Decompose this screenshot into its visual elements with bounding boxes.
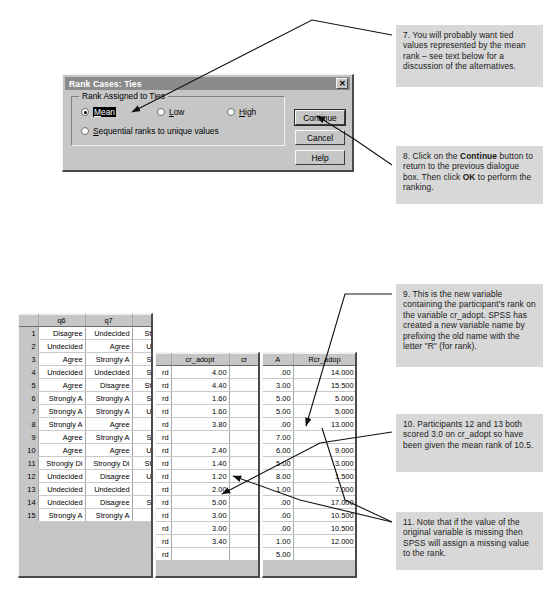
table-cell[interactable] [132, 483, 153, 496]
table-row[interactable]: 3AgreeStrongly AS [19, 353, 153, 366]
table-cell[interactable]: 1.40 [171, 457, 229, 470]
table-cell[interactable]: 13.000 [293, 418, 356, 431]
table-cell[interactable]: 3.00 [171, 522, 229, 535]
table-row[interactable]: 2UndecidedAgreeU [19, 340, 153, 353]
table-cell[interactable] [229, 509, 259, 522]
table-cell[interactable]: 3.40 [171, 535, 229, 548]
column-header-partial[interactable] [132, 315, 153, 327]
table-cell[interactable]: 5.00 [171, 496, 229, 509]
table-cell[interactable]: U [132, 405, 153, 418]
table-cell[interactable]: 1.60 [171, 405, 229, 418]
table-cell[interactable]: 6.00 [263, 444, 293, 457]
column-header-q6[interactable]: q6 [38, 315, 85, 327]
table-cell[interactable]: S [132, 496, 153, 509]
table-row[interactable]: rd3.00 [156, 509, 259, 522]
table-cell[interactable]: Agree [38, 444, 85, 457]
table-cell[interactable]: Strongly A [85, 353, 132, 366]
table-cell[interactable] [229, 418, 259, 431]
table-cell[interactable]: 10.500 [293, 509, 356, 522]
table-cell[interactable]: rd [156, 496, 171, 509]
table-row[interactable]: .0014.000 [263, 366, 356, 379]
table-cell[interactable]: Strongly A [38, 418, 85, 431]
radio-option-low[interactable]: Low [157, 107, 227, 117]
table-row[interactable]: rd1.20 [156, 470, 259, 483]
table-row[interactable]: 5.00 [263, 548, 356, 561]
table-cell[interactable]: Strongly Di [85, 457, 132, 470]
table-cell[interactable]: rd [156, 483, 171, 496]
table-cell[interactable]: rd [156, 548, 171, 561]
table-row[interactable]: .0013.000 [263, 418, 356, 431]
table-row[interactable]: rd3.00 [156, 522, 259, 535]
table-cell[interactable]: rd [156, 379, 171, 392]
table-row[interactable]: 5.005.000 [263, 392, 356, 405]
help-button[interactable]: Help [295, 150, 345, 165]
table-cell[interactable]: 1.20 [171, 470, 229, 483]
table-cell[interactable]: U [132, 470, 153, 483]
table-cell[interactable]: Strongly A [85, 392, 132, 405]
table-row[interactable]: 1DisagreeUndecidedSt [19, 327, 153, 340]
table-cell[interactable]: rd [156, 418, 171, 431]
table-cell[interactable]: Undecided [85, 483, 132, 496]
table-cell[interactable]: Agree [38, 431, 85, 444]
table-cell[interactable]: 3.000 [293, 457, 356, 470]
table-cell[interactable]: 12.000 [293, 535, 356, 548]
table-cell[interactable] [171, 431, 229, 444]
table-cell[interactable] [229, 431, 259, 444]
table-cell[interactable] [229, 483, 259, 496]
table-row[interactable]: rd1.60 [156, 405, 259, 418]
radio-option-high[interactable]: High [227, 107, 256, 117]
table-cell[interactable]: rd [156, 392, 171, 405]
table-cell[interactable]: 1.60 [171, 392, 229, 405]
table-cell[interactable]: Undecided [38, 366, 85, 379]
table-row[interactable]: 8.001.500 [263, 470, 356, 483]
table-cell[interactable]: Agree [38, 379, 85, 392]
table-cell[interactable]: Disagree [85, 379, 132, 392]
table-cell[interactable]: rd [156, 366, 171, 379]
table-cell[interactable]: 8.00 [263, 470, 293, 483]
table-cell[interactable]: 5.00 [263, 457, 293, 470]
table-cell[interactable]: rd [156, 431, 171, 444]
table-row[interactable]: 7Strongly AStrongly AU [19, 405, 153, 418]
table-cell[interactable] [229, 457, 259, 470]
table-cell[interactable]: 2.40 [171, 444, 229, 457]
table-row[interactable]: 8Strongly AAgree [19, 418, 153, 431]
radio-mean-indicator[interactable] [81, 108, 89, 116]
table-cell[interactable]: 4.00 [171, 366, 229, 379]
table-row[interactable]: 5.003.000 [263, 457, 356, 470]
column-header-a[interactable]: A [263, 354, 293, 366]
table-cell[interactable]: Strongly A [38, 392, 85, 405]
continue-button[interactable]: Continue [295, 110, 345, 125]
table-cell[interactable]: 1.500 [293, 470, 356, 483]
table-cell[interactable]: 5.00 [263, 548, 293, 561]
table-row[interactable]: 12UndecidedDisagreeU [19, 470, 153, 483]
table-row[interactable]: 13UndecidedUndecided [19, 483, 153, 496]
table-row[interactable]: 15Strongly AStrongly A [19, 509, 153, 522]
table-row[interactable]: 3.0015.500 [263, 379, 356, 392]
table-row[interactable]: 1.0012.000 [263, 535, 356, 548]
table-row[interactable]: rd4.00 [156, 366, 259, 379]
table-cell[interactable]: St [132, 327, 153, 340]
table-row[interactable]: 5AgreeDisagreeSt [19, 379, 153, 392]
radio-sequential-indicator[interactable] [81, 127, 89, 135]
table-cell[interactable]: 10.500 [293, 522, 356, 535]
table-cell[interactable]: rd [156, 444, 171, 457]
table-cell[interactable]: Undecided [38, 340, 85, 353]
table-cell[interactable]: 4.40 [171, 379, 229, 392]
table-cell[interactable]: .00 [263, 496, 293, 509]
table-cell[interactable]: rd [156, 457, 171, 470]
table-cell[interactable]: 7.000 [293, 483, 356, 496]
table-row[interactable]: rd3.40 [156, 535, 259, 548]
table-row[interactable]: rd2.40 [156, 444, 259, 457]
table-row[interactable]: rd [156, 548, 259, 561]
table-row[interactable]: 6.009.000 [263, 444, 356, 457]
table-row[interactable]: rd5.00 [156, 496, 259, 509]
table-cell[interactable]: rd [156, 470, 171, 483]
table-row[interactable]: rd1.40 [156, 457, 259, 470]
table-cell[interactable]: .00 [263, 509, 293, 522]
table-cell[interactable]: Undecided [38, 470, 85, 483]
table-row[interactable]: .0017.000 [263, 496, 356, 509]
table-cell[interactable]: Disagree [85, 496, 132, 509]
table-cell[interactable]: .00 [263, 366, 293, 379]
table-cell[interactable]: St [132, 457, 153, 470]
table-row[interactable]: rd [156, 431, 259, 444]
